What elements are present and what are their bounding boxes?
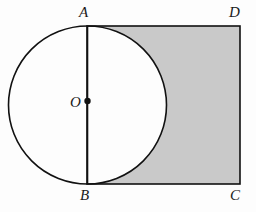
vertex-label-b: B	[80, 188, 89, 203]
geometry-figure: A D B C O	[0, 0, 256, 212]
vertex-label-a: A	[79, 5, 88, 20]
geometry-canvas	[0, 0, 256, 212]
center-label-o: O	[70, 95, 81, 110]
shaded-region	[87, 26, 240, 184]
vertex-label-d: D	[229, 5, 240, 20]
vertex-label-c: C	[230, 188, 240, 203]
center-point-o	[84, 98, 90, 104]
